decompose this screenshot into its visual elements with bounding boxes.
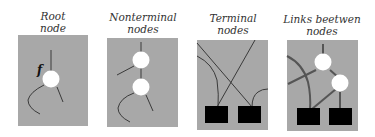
- terminal-node-icon: [205, 106, 228, 123]
- terminal-node-icon: [238, 106, 261, 123]
- tree-diagram: f: [0, 0, 375, 137]
- nonterminal-node-icon: [315, 54, 332, 71]
- terminal-node-icon: [329, 108, 352, 125]
- panel-root-node: f: [18, 35, 88, 126]
- terminal-node-icon: [297, 108, 320, 125]
- nonterminal-node-icon: [332, 75, 349, 92]
- nonterminal-node-icon: [133, 79, 150, 96]
- root-node-icon: [43, 71, 60, 88]
- panel-links-between-nodes: [287, 40, 358, 131]
- nonterminal-node-icon: [133, 52, 150, 69]
- panel-terminal-nodes: [197, 40, 268, 130]
- panel-nonterminal-nodes: [107, 38, 178, 127]
